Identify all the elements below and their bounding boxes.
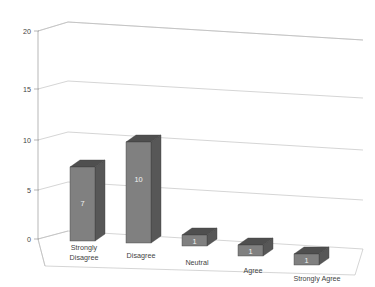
category-label-strongly-agree: Strongly Agree bbox=[293, 274, 340, 283]
chart-container: 20 15 10 5 0 7 10 1 bbox=[0, 0, 375, 287]
y-axis-tick-20: 20 bbox=[23, 27, 31, 36]
bar-neutral[interactable]: 1 bbox=[182, 228, 217, 246]
category-label-neutral: Neutral bbox=[185, 258, 209, 267]
bar-value-strongly-disagree: 7 bbox=[80, 199, 84, 208]
category-label-strongly-disagree-line2: Disagree bbox=[70, 253, 99, 262]
bar-value-strongly-agree: 1 bbox=[304, 256, 308, 265]
y-axis: 20 15 10 5 0 bbox=[23, 27, 39, 244]
y-axis-tick-0: 0 bbox=[27, 235, 31, 244]
bar-value-agree: 1 bbox=[248, 247, 252, 256]
bar-agree[interactable]: 1 bbox=[238, 238, 273, 256]
y-axis-tick-5: 5 bbox=[27, 186, 31, 195]
bar-value-neutral: 1 bbox=[192, 237, 196, 246]
bar-strongly-disagree[interactable]: 7 bbox=[70, 160, 105, 241]
y-axis-tick-15: 15 bbox=[23, 85, 31, 94]
bar-strongly-agree[interactable]: 1 bbox=[294, 247, 329, 265]
category-label-strongly-disagree-line1: Strongly bbox=[71, 243, 98, 252]
bar-chart-3d: 20 15 10 5 0 7 10 1 bbox=[0, 0, 375, 287]
category-label-disagree: Disagree bbox=[127, 251, 156, 260]
bar-value-disagree: 10 bbox=[134, 175, 142, 184]
bar-disagree[interactable]: 10 bbox=[126, 135, 161, 243]
y-axis-tick-10: 10 bbox=[23, 136, 31, 145]
category-label-agree: Agree bbox=[243, 266, 262, 275]
